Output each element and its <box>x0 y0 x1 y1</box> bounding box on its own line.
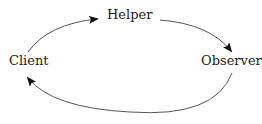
arrow-client-to-helper <box>28 19 97 52</box>
node-helper: Helper <box>107 8 152 22</box>
node-client: Client <box>9 54 49 68</box>
arrow-helper-to-observer <box>160 20 231 51</box>
arrow-observer-to-client <box>28 73 232 113</box>
node-observer: Observer <box>201 54 262 68</box>
cycle-diagram: Helper Client Observer <box>0 0 262 124</box>
